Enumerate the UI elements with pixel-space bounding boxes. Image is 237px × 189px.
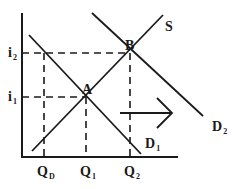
- diagram-graphics: [0, 0, 237, 189]
- x-label-q2: Q2: [124, 165, 140, 181]
- demand1-label: D1: [145, 137, 160, 153]
- supply-label: S: [165, 20, 173, 34]
- demand2-curve: [92, 13, 203, 116]
- supply-curve: [32, 15, 163, 151]
- right-arrow-icon: [120, 98, 172, 128]
- point-a-label: A: [82, 83, 92, 97]
- supply-demand-diagram: i2 i1 QD Q1 Q2 A B S D1 D2: [0, 0, 237, 189]
- demand2-label: D2: [212, 120, 227, 136]
- x-label-q1: Q1: [80, 165, 96, 181]
- y-label-i2: i2: [8, 46, 17, 62]
- point-b-label: B: [125, 39, 134, 53]
- x-label-qd: QD: [37, 165, 55, 181]
- y-label-i1: i1: [8, 90, 17, 106]
